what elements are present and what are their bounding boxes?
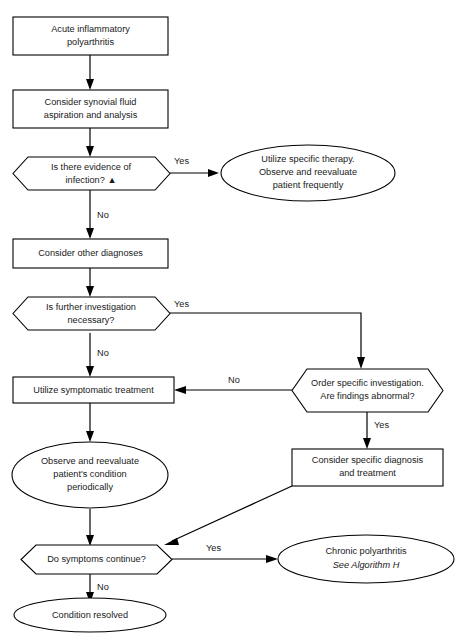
arrow-head-icon [86,79,94,90]
edge-label-symptoms-yes: Yes [206,543,221,553]
arrow-head-icon [363,438,371,449]
node-label-line1: Consider specific diagnosis [312,455,424,465]
node-label-line1: Is further investigation [46,302,136,312]
node-label-line3: patient frequently [273,180,344,190]
node-label-line3: periodically [67,482,113,492]
arrow-head-icon [86,366,94,377]
edge-infection-no-to-other-dx [86,190,94,239]
arrow-head-icon [174,386,186,394]
node-label-line2: and treatment [339,468,396,478]
arrow-head-icon [266,555,278,563]
edge-synovial-to-infection [86,128,94,157]
node-label-line1: Observe and reevaluate [41,456,139,466]
node-order-specific-investigation: Order specific investigation. Are findin… [292,369,443,412]
edge-label-order-no: No [228,375,240,385]
node-label-line2: See Algorithm H [333,560,400,570]
edge-label-further-yes: Yes [174,299,189,309]
edge-label-order-yes: Yes [374,420,389,430]
node-label-line1: Do symptoms continue? [47,554,146,564]
node-is-further-investigation-necessary: Is further investigation necessary? [13,297,170,330]
node-label-line1: Is there evidence of [51,162,132,172]
node-label-line2: polyarthritis [67,37,114,47]
edge-further-yes-to-order-inv [170,313,365,369]
node-is-there-evidence-of-infection: Is there evidence of infection? ▲ [13,157,170,190]
node-label-line1: Condition resolved [52,610,128,620]
node-label-line1: Consider synovial fluid [45,97,137,107]
node-observe-and-reevaluate: Observe and reevaluate patient's conditi… [12,442,168,508]
node-label-line1: Consider other diagnoses [38,248,143,258]
node-label-line2: Are findings abnormal? [320,391,414,401]
node-label-line1: Utilize specific therapy. [261,154,354,164]
node-utilize-symptomatic-treatment: Utilize symptomatic treatment [13,377,174,403]
edge-observe-to-symptoms [86,509,94,546]
edge-infection-yes-to-specific-therapy [170,169,219,177]
node-label-line2: aspiration and analysis [44,110,138,120]
arrow-head-icon [86,286,94,297]
edge-specific-dx-to-symptoms [164,486,292,545]
node-shape-rectangle [13,90,168,128]
node-consider-other-diagnoses: Consider other diagnoses [13,239,168,268]
node-consider-specific-diagnosis: Consider specific diagnosis and treatmen… [292,449,443,486]
node-condition-resolved: Condition resolved [14,598,166,632]
node-do-symptoms-continue: Do symptoms continue? [21,545,172,574]
node-label-line2: Observe and reevaluate [259,167,357,177]
arrow-head-icon [86,228,94,239]
node-utilize-specific-therapy: Utilize specific therapy. Observe and re… [221,145,395,201]
arrow-head-icon [86,146,94,157]
polyarthritis-algorithm-flowchart: specific_therapy --> Yes other_dx --> No… [0,0,456,637]
node-label-line2: patient's condition [53,469,126,479]
edge-other-dx-to-further-inv [86,268,94,297]
node-shape-rectangle [13,17,168,55]
arrow-head-icon [208,169,219,177]
node-consider-synovial-fluid: Consider synovial fluid aspiration and a… [13,90,168,128]
flowchart-page: specific_therapy --> Yes other_dx --> No… [0,0,456,637]
node-label-line1: Utilize symptomatic treatment [33,385,154,395]
node-label-line2: infection? ▲ [66,175,117,185]
arrow-head-icon [357,357,365,369]
edge-further-no-to-symptomatic [86,333,94,377]
node-label-line1: Chronic polyarthritis [325,546,407,556]
arrow-head-icon [164,538,179,545]
edge-label-further-no: No [97,348,109,358]
node-label-line1: Order specific investigation. [311,378,424,388]
arrow-head-icon [86,535,94,546]
node-chronic-polyarthritis: Chronic polyarthritis See Algorithm H [278,535,454,583]
node-label-line1: Acute inflammatory [51,24,130,34]
node-acute-inflammatory-polyarthritis: Acute inflammatory polyarthritis [13,17,168,55]
edge-label-infection-yes: Yes [174,156,189,166]
edge-symptoms-yes-to-chronic [172,555,278,563]
edge-label-infection-no: No [97,210,109,220]
edge-symptomatic-to-observe [86,403,94,442]
edge-start-to-synovial [86,55,94,90]
edge-label-symptoms-no: No [97,582,109,592]
edge-order-yes-to-specific-dx [363,412,371,449]
node-shape-ellipse [278,535,454,583]
arrow-head-icon [86,431,94,442]
edge-order-no-to-symptomatic [174,386,292,394]
node-label-line2: necessary? [68,315,115,325]
